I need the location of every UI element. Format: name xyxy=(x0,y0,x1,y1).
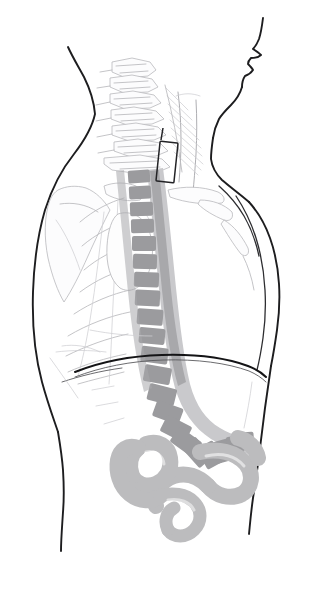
vertebra-block xyxy=(129,185,152,199)
vertebra-c2 xyxy=(110,75,158,93)
rib-line xyxy=(68,312,130,336)
vertebra-block xyxy=(132,236,156,251)
vertebra-block xyxy=(136,308,163,326)
lower-back-outline xyxy=(58,432,64,551)
vertebra-block xyxy=(131,219,154,233)
vertebra-c4 xyxy=(111,107,164,125)
vertebra-c3 xyxy=(110,91,161,109)
face-profile-outline xyxy=(242,18,263,87)
transverse-process-line xyxy=(92,386,124,424)
intestinal-loop xyxy=(166,508,174,530)
rib-line xyxy=(74,290,130,314)
upper-thoracic-detail xyxy=(165,85,203,175)
manubrium xyxy=(198,200,233,221)
lower-spine-detail xyxy=(92,386,124,424)
vertebra-c5 xyxy=(112,123,166,141)
trachea-line xyxy=(193,100,197,192)
jaw-neck-outline xyxy=(213,87,242,138)
vertebra-block xyxy=(130,202,153,217)
vertebra-block xyxy=(133,254,157,269)
thoracic-fan-lines xyxy=(166,88,203,175)
anatomy-figure: Lateral view of human head, neck and tor… xyxy=(0,0,312,596)
abdominal-wall-line xyxy=(244,382,252,428)
xiphoid-line xyxy=(243,256,254,290)
vertebra-block xyxy=(128,169,151,184)
hyoid-line xyxy=(176,94,200,96)
vertebra-block xyxy=(134,272,160,288)
chest-inner-line xyxy=(236,196,265,370)
sternum-clavicle xyxy=(168,187,254,290)
clavicle xyxy=(168,187,224,204)
anatomical-illustration: Lateral view of human head, neck and tor… xyxy=(0,0,312,596)
sternum-body xyxy=(221,220,249,256)
airway-lines xyxy=(176,92,200,192)
vertebra-block xyxy=(135,289,161,306)
